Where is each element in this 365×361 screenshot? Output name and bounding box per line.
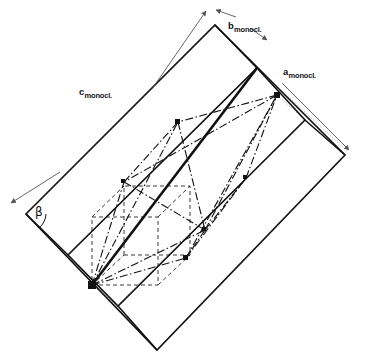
label-c-subscript: monocl.	[85, 91, 112, 100]
label-a-subscript: monocl.	[289, 71, 316, 80]
vertex-marker-mid-right	[243, 175, 247, 179]
cubic-cell-front-face	[92, 217, 158, 285]
monoclinic-edge-bottom	[118, 306, 157, 350]
vertex-marker-upper-left	[175, 119, 180, 124]
label-b-subscript: monocl.	[234, 25, 261, 34]
label-c-base: c	[79, 86, 84, 97]
vertex-marker-lower-right	[183, 255, 188, 260]
vertex-marker-lower-mid	[202, 227, 206, 231]
crystal-cell-diagram	[0, 0, 365, 361]
vertex-markers	[88, 92, 280, 289]
cubic-cell-dashed	[92, 186, 190, 285]
label-beta-angle: β	[35, 206, 43, 218]
rhombo-edge-lowerhub-lowerright	[92, 258, 186, 285]
c-axis-arrow-up	[152, 11, 206, 89]
rhombo-edge-midright-hub	[246, 95, 277, 178]
vertex-marker-lower-hub	[88, 281, 96, 289]
rhombo-edge-lowerright-hub	[186, 95, 277, 258]
monoclinic-body-diagonal-emphasis	[92, 68, 257, 285]
label-b-axis: bmonocl.	[228, 16, 261, 32]
figure-container: amonocl. bmonocl. cmonocl. β	[0, 0, 365, 361]
vertex-marker-mid-left	[121, 179, 125, 183]
monoclinic-edge-left	[26, 214, 68, 255]
a-axis-arrow	[282, 83, 349, 150]
label-a-base: a	[283, 66, 288, 77]
cubic-cell-edge-tl	[92, 186, 124, 217]
rhombo-edge-lowerhub-upperleft	[92, 122, 178, 285]
label-b-base: b	[228, 20, 234, 31]
axis-arrows	[11, 10, 349, 203]
label-c-axis: cmonocl.	[79, 82, 112, 98]
monoclinic-emphasis-edges	[92, 68, 257, 285]
monoclinic-edge-right	[305, 120, 345, 155]
label-a-axis: amonocl.	[283, 62, 316, 78]
vertex-marker-upper-hub	[274, 92, 280, 98]
